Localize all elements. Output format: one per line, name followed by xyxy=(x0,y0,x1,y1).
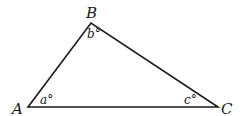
angle-label-c: c° xyxy=(184,93,197,107)
vertex-label-b: B xyxy=(85,4,97,22)
vertex-label-c: C xyxy=(221,100,233,116)
vertex-label-a: A xyxy=(10,100,23,116)
triangle-diagram: B A C b° a° c° xyxy=(0,0,241,116)
angle-label-a: a° xyxy=(40,93,53,107)
angle-label-b: b° xyxy=(87,27,101,41)
